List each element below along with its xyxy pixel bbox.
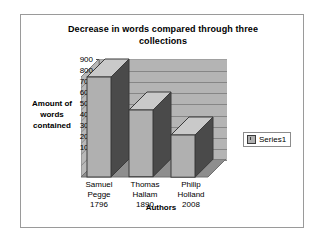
x-category-3-name-1: Philip bbox=[165, 180, 217, 190]
chart-legend[interactable]: Series1 bbox=[243, 132, 291, 147]
series-swatch-icon bbox=[247, 135, 256, 144]
chart-frame: Decrease in words compared through three… bbox=[20, 14, 304, 228]
x-category-3-name-2: Holland bbox=[165, 190, 217, 200]
x-category-1-name-1: Samuel bbox=[73, 180, 125, 190]
bar-thomas-hallam[interactable] bbox=[129, 92, 153, 177]
x-category-2-name-2: Hallam bbox=[119, 190, 171, 200]
bar-samuel-pegge[interactable] bbox=[87, 59, 111, 177]
plot-area: 900 800 700 600 500 400 300 200 100 0 bbox=[21, 15, 305, 229]
bar-philip-holland[interactable] bbox=[171, 117, 195, 178]
x-category-2-name-1: Thomas bbox=[119, 180, 171, 190]
x-axis-title: Authors bbox=[81, 203, 241, 212]
x-category-1-name-2: Pegge bbox=[73, 190, 125, 200]
legend-entry-label: Series1 bbox=[259, 135, 286, 144]
